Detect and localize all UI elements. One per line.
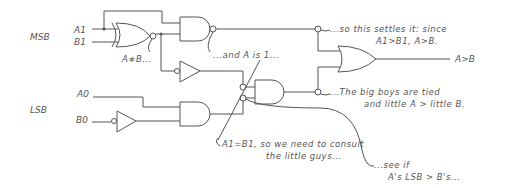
annotation-consult-2: the little guys... [266, 151, 342, 161]
output-label: A>B [454, 54, 475, 64]
comparator-circuit-diagram: MSB LSB A1 B1 A0 B0 [0, 0, 515, 188]
annotation-seeif-1: ...see if [374, 160, 411, 170]
inverter-middle [175, 61, 244, 84]
inverter-b0 [112, 111, 181, 132]
annotation-xnor: A≉B... [121, 54, 152, 64]
and-gate-lsb [180, 100, 243, 126]
msb-label: MSB [30, 32, 50, 42]
annotation-settles-2: A1>B1, A>B. [375, 36, 438, 46]
input-a1-label: A1 [73, 25, 86, 35]
lsb-input-wires [92, 97, 180, 122]
annotation-tied-1: ...The big boys are tied [330, 87, 440, 97]
lsb-label: LSB [30, 105, 47, 115]
annotation-settles-1: ...so this settles it: since [330, 24, 447, 34]
input-b0-label: B0 [76, 115, 88, 125]
annotation-and: ...and A is 1... [213, 50, 279, 60]
and-gate-top [180, 17, 318, 41]
annotation-tied-2: and little A > little B. [364, 99, 465, 109]
and-gate-middle [240, 80, 315, 104]
annotation-consult-1: A1=B1, so we need to consult [221, 139, 364, 149]
annotation-seeif-2: A's LSB > B's... [387, 172, 460, 182]
input-b1-label: B1 [74, 37, 86, 47]
input-a0-label: A0 [76, 89, 89, 99]
xnor-output-wires [156, 33, 180, 72]
